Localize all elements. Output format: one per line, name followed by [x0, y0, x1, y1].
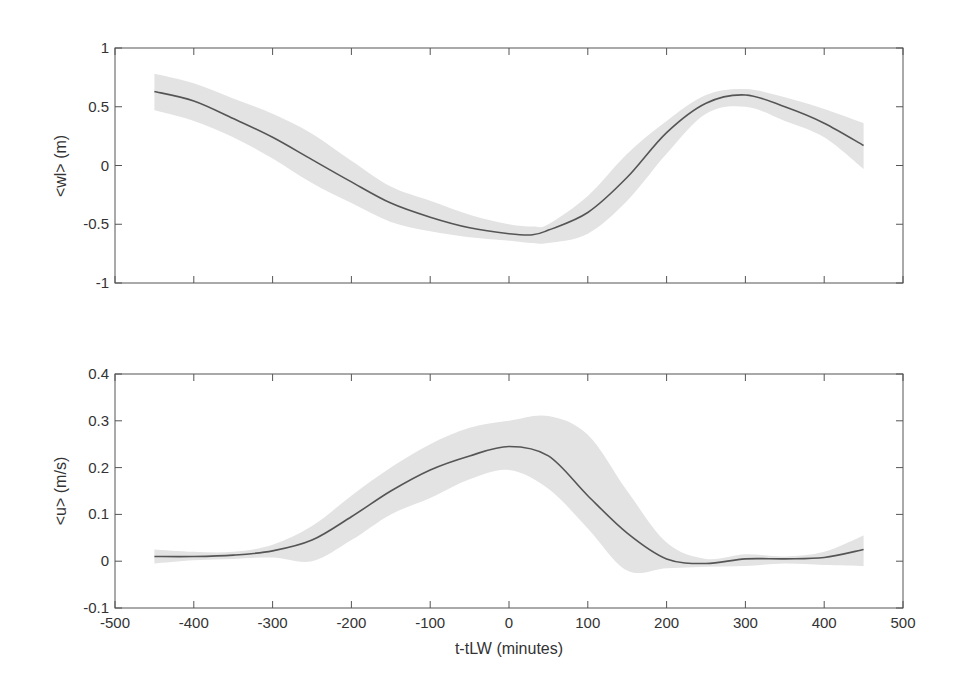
- velocity-y-axis-label: <u> (m/s): [52, 457, 69, 525]
- y-tick-label: 0: [101, 552, 109, 569]
- water-level-y-axis-label: <wl> (m): [52, 135, 69, 197]
- x-tick-label: 0: [505, 614, 513, 631]
- y-tick-label: 1: [101, 39, 109, 56]
- y-tick-label: 0.2: [88, 459, 109, 476]
- x-tick-label: -100: [415, 614, 445, 631]
- x-tick-label: 300: [733, 614, 758, 631]
- x-tick-label: -500: [100, 614, 130, 631]
- velocity-axes-frame: [115, 374, 903, 608]
- x-tick-label: -400: [179, 614, 209, 631]
- x-axis-label: t-tLW (minutes): [455, 640, 563, 657]
- y-tick-label: 0.1: [88, 505, 109, 522]
- y-tick-label: 0.4: [88, 365, 109, 382]
- velocity-panel: -0.100.10.20.30.4 -500-400-300-200-10001…: [52, 365, 916, 657]
- x-tick-label: 400: [812, 614, 837, 631]
- x-tick-label: 100: [575, 614, 600, 631]
- y-tick-label: -1: [96, 274, 109, 291]
- x-tick-label: -300: [258, 614, 288, 631]
- y-tick-label: 0.3: [88, 412, 109, 429]
- velocity-confidence-band: [154, 416, 863, 574]
- x-tick-label: -200: [336, 614, 366, 631]
- y-tick-label: 0: [101, 157, 109, 174]
- x-tick-labels: -500-400-300-200-1000100200300400500: [100, 614, 916, 631]
- x-tick-label: 200: [654, 614, 679, 631]
- water-level-ticks: [115, 48, 903, 283]
- y-tick-label: 0.5: [88, 98, 109, 115]
- water-level-confidence-band: [154, 74, 863, 244]
- water-level-axes-frame: [115, 48, 903, 283]
- x-tick-label: 500: [890, 614, 915, 631]
- velocity-y-tick-labels: -0.100.10.20.30.4: [83, 365, 109, 616]
- water-level-panel: -1-0.500.51 <wl> (m): [52, 39, 903, 291]
- y-tick-label: -0.5: [83, 215, 109, 232]
- velocity-ticks: [115, 374, 903, 608]
- figure: -1-0.500.51 <wl> (m) -0.100.10.20.30.4 -…: [0, 0, 965, 695]
- water-level-y-tick-labels: -1-0.500.51: [83, 39, 109, 291]
